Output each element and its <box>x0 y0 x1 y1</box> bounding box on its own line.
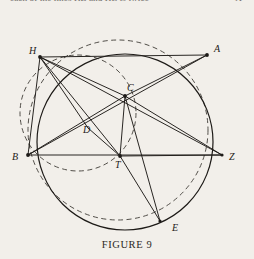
point-label-B: B <box>12 151 18 162</box>
point-label-A: A <box>213 43 221 54</box>
figure-9-diagram: H A C D B T Z E <box>0 0 254 259</box>
scanned-page: each of the lines HZ and HE is twice A <box>0 0 254 259</box>
point-label-H: H <box>28 45 37 56</box>
segment-C-T <box>120 96 125 156</box>
vertex-dot-C <box>123 94 127 98</box>
segment-B-C <box>28 96 125 155</box>
segment-T-E <box>120 156 160 221</box>
segment-H-A <box>40 55 207 57</box>
segment-A-C <box>125 55 207 96</box>
segment-H-B <box>28 57 40 155</box>
vertex-dot-B <box>26 153 30 157</box>
point-label-Z: Z <box>229 151 235 162</box>
segment-C-E <box>125 96 160 221</box>
segment-H-Z <box>40 57 222 155</box>
vertex-dot-A <box>205 53 209 57</box>
vertex-dot-E <box>158 219 161 222</box>
figure-caption: FIGURE 9 <box>0 239 254 250</box>
segment-C-Z <box>125 96 222 155</box>
point-label-T: T <box>115 159 122 170</box>
main-circle <box>37 54 213 230</box>
point-label-E: E <box>171 222 178 233</box>
point-label-D: D <box>82 124 91 135</box>
vertex-dot-Z <box>220 153 223 156</box>
point-label-C: C <box>127 82 134 93</box>
vertex-dot-H <box>38 55 42 59</box>
segment-D-T <box>88 128 120 156</box>
vertex-dot-T <box>118 154 122 158</box>
